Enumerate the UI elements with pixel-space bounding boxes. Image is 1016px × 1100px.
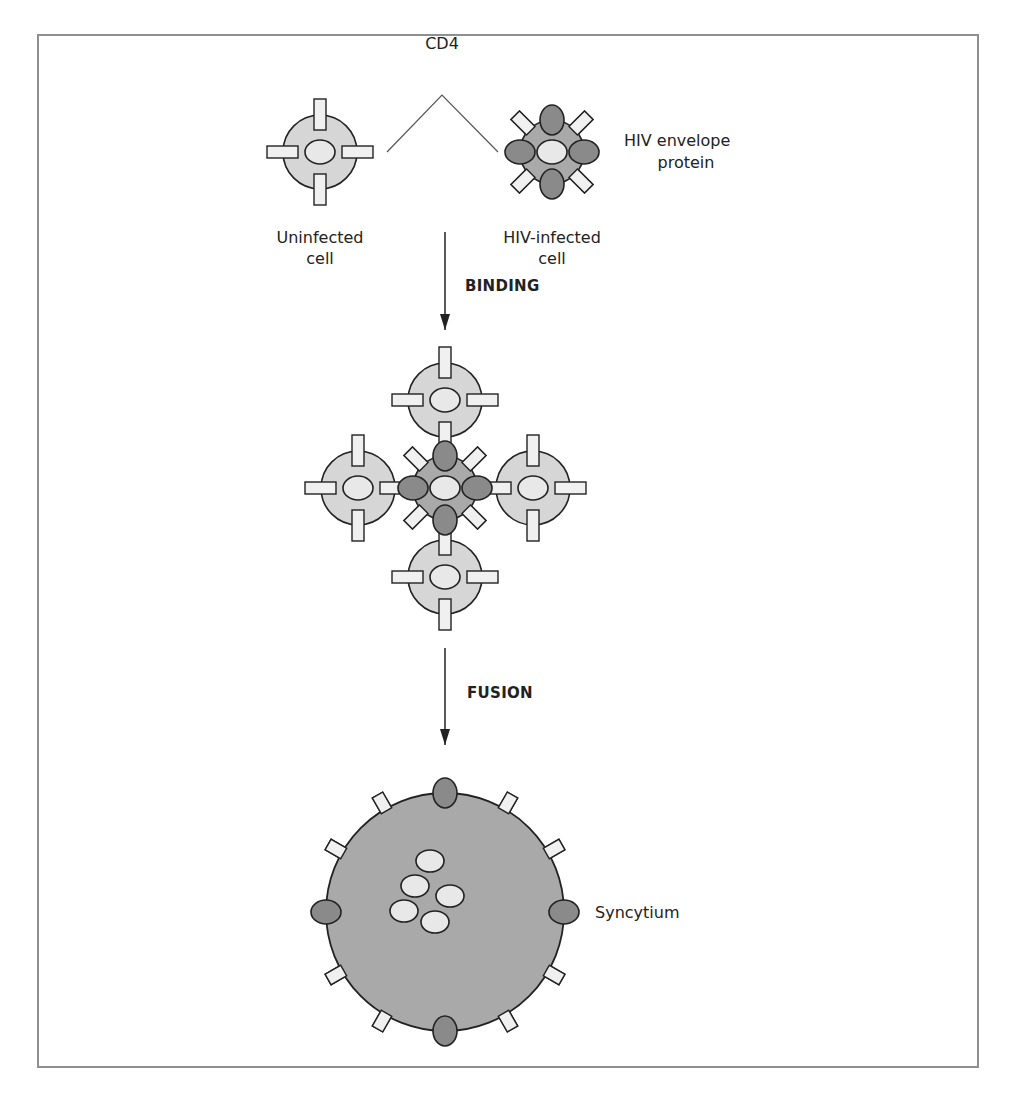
- envelope-protein-label-line2: protein: [624, 152, 748, 173]
- uninfected-cell: [267, 99, 373, 205]
- cd4-label: CD4: [412, 33, 472, 54]
- infected-cell-label-line2: cell: [487, 248, 617, 269]
- binding-arrowhead-icon: [440, 314, 450, 330]
- uninfected-cell-label-line1: Uninfected: [260, 227, 380, 248]
- bound-cell-cluster: [305, 347, 586, 630]
- hiv-infected-cell: [478, 78, 625, 225]
- uninfected-cell-label-line2: cell: [260, 248, 380, 269]
- fusion-arrowhead-icon: [440, 729, 450, 745]
- syncytium-label: Syncytium: [595, 902, 679, 923]
- fusion-label: FUSION: [467, 683, 533, 704]
- syncytium-cell: [311, 778, 579, 1046]
- cd4-leader-lines: [387, 95, 498, 152]
- infected-cell-label-line1: HIV-infected: [487, 227, 617, 248]
- binding-label: BINDING: [465, 276, 540, 297]
- envelope-protein-label-line1: HIV envelope: [624, 130, 730, 151]
- hiv-syncytium-diagram: [0, 0, 1016, 1100]
